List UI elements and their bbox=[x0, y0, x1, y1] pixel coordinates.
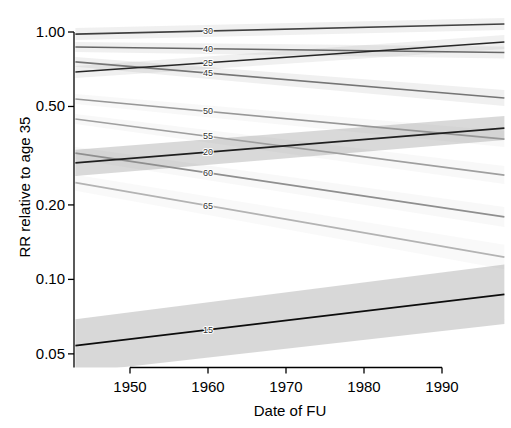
y-axis-tick-label: 0.50 bbox=[36, 97, 65, 114]
series-label-50: 50 bbox=[203, 106, 213, 116]
series-label-45: 45 bbox=[203, 68, 213, 78]
y-axis-tick-label: 1.00 bbox=[36, 23, 65, 40]
x-axis-tick-label: 1980 bbox=[347, 378, 380, 395]
series-label-65: 65 bbox=[203, 201, 213, 211]
series-label-20: 20 bbox=[203, 147, 213, 157]
series-label-60: 60 bbox=[203, 168, 213, 178]
y-axis-title: RR relative to age 35 bbox=[16, 117, 33, 258]
x-axis-tick-label: 1960 bbox=[191, 378, 224, 395]
y-axis-tick-label: 0.10 bbox=[36, 270, 65, 287]
series-label-15: 15 bbox=[203, 325, 213, 335]
series-label-55: 55 bbox=[203, 131, 213, 141]
rr-age-chart: 1.000.500.200.100.0519501960197019801990… bbox=[0, 0, 511, 428]
series-label-25: 25 bbox=[203, 58, 213, 68]
x-axis-tick-label: 1990 bbox=[425, 378, 458, 395]
x-axis-title: Date of FU bbox=[74, 402, 506, 419]
series-label-40: 40 bbox=[203, 44, 213, 54]
series-band-15 bbox=[75, 264, 504, 372]
x-axis-tick-label: 1950 bbox=[113, 378, 146, 395]
series-line-65 bbox=[75, 183, 504, 258]
y-axis-tick-label: 0.20 bbox=[36, 196, 65, 213]
series-label-30: 30 bbox=[203, 26, 213, 36]
y-axis-tick-label: 0.05 bbox=[36, 345, 65, 362]
x-axis-tick-label: 1970 bbox=[269, 378, 302, 395]
chart-canvas: 1.000.500.200.100.0519501960197019801990… bbox=[0, 0, 511, 428]
